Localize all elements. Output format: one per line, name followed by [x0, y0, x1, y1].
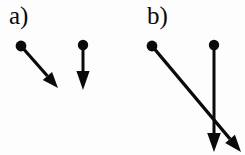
- panel-label-a: a): [9, 3, 28, 28]
- panel-a-vectors: [16, 40, 90, 90]
- panel-b-vectors: [147, 40, 241, 152]
- vector-b2-arrowhead: [207, 133, 221, 152]
- vector-a1-shaft: [21, 46, 47, 76]
- vector-b2-origin-dot: [209, 40, 219, 50]
- panel-label-b: b): [147, 3, 168, 28]
- vector-a2-arrowhead: [76, 71, 89, 90]
- vector-layer: [0, 0, 245, 155]
- vector-a1-origin-dot: [16, 41, 27, 52]
- figure-root: a) b): [0, 0, 245, 155]
- vector-b1-origin-dot: [147, 41, 158, 52]
- vector-b1-shaft: [152, 46, 230, 139]
- vector-a2-origin-dot: [78, 40, 88, 50]
